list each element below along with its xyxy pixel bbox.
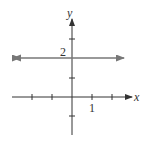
x-axis-label: x bbox=[133, 90, 140, 104]
y-tick-label-2: 2 bbox=[60, 45, 66, 59]
x-tick-label-1: 1 bbox=[89, 101, 95, 115]
left-arrow-icon bbox=[12, 55, 21, 62]
y-axis-label: y bbox=[66, 6, 73, 20]
coordinate-plane: y x 2 1 bbox=[0, 0, 146, 144]
